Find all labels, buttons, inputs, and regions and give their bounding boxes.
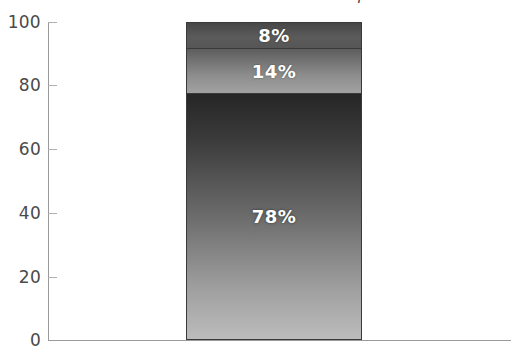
y-tick-label-80: 80 <box>0 75 41 95</box>
bar-segment-top-label: 8% <box>258 25 290 46</box>
y-tick-40 <box>48 213 57 214</box>
bar-segment-bottom[interactable]: 78% <box>187 93 361 339</box>
bar-segment-middle[interactable]: 14% <box>187 48 361 93</box>
y-tick-label-40: 40 <box>0 203 41 223</box>
y-tick-20 <box>48 277 57 278</box>
y-tick-label-0: 0 <box>0 330 41 350</box>
y-tick-label-20: 20 <box>0 267 41 287</box>
stacked-bar[interactable]: 8% 14% 78% <box>186 22 362 340</box>
y-tick-100 <box>48 22 57 23</box>
bar-segment-middle-label: 14% <box>252 61 297 82</box>
bar-segment-bottom-label: 78% <box>252 206 297 227</box>
chart-title: Grain size distribution of sample <box>0 0 513 6</box>
bar-chart: Grain size distribution of sample 100 80… <box>0 0 513 350</box>
x-axis-line <box>48 340 511 341</box>
y-tick-label-60: 60 <box>0 139 41 159</box>
y-axis-line <box>48 22 49 341</box>
y-tick-80 <box>48 85 57 86</box>
y-tick-label-100: 100 <box>0 12 41 32</box>
bar-segment-top[interactable]: 8% <box>187 23 361 48</box>
y-tick-60 <box>48 149 57 150</box>
